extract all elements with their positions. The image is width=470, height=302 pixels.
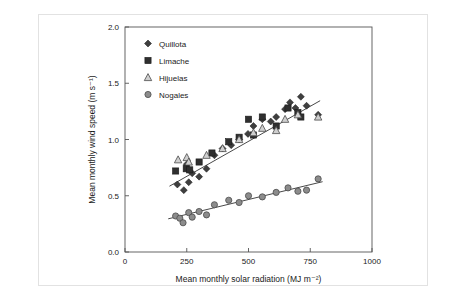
data-point-circle [245,193,251,199]
data-point-square [145,57,151,63]
data-point-circle [285,185,291,191]
x-tick-label: 0 [123,257,128,266]
data-point-circle [211,202,217,208]
x-tick-label: 1000 [363,257,381,266]
data-point-circle [315,176,321,182]
data-point-square [285,105,291,111]
data-point-circle [145,91,151,97]
legend-label-nogales: Nogales [159,91,188,100]
data-point-square [173,168,179,174]
data-point-square [259,114,265,120]
x-tick-label: 250 [180,257,194,266]
data-point-circle [203,212,209,218]
x-axis-title: Mean monthly solar radiation (MJ m⁻²) [176,274,322,284]
figure-container: 025050075010000.00.51.01.52.0Mean monthl… [0,0,470,302]
legend-label-quillota: Quillota [159,40,187,49]
data-point-square [245,116,251,122]
data-point-circle [196,208,202,214]
data-point-circle [273,189,279,195]
y-tick-label: 0.5 [108,192,120,201]
y-tick-label: 2.0 [108,23,120,32]
data-point-circle [226,197,232,203]
legend-label-hijuelas: Hijuelas [159,74,187,83]
y-tick-label: 1.5 [108,79,120,88]
x-tick-label: 500 [242,257,256,266]
data-point-circle [236,199,242,205]
scatter-chart: 025050075010000.00.51.01.52.0Mean monthl… [0,0,470,302]
data-point-circle [180,220,186,226]
data-point-circle [259,194,265,200]
x-tick-label: 750 [304,257,318,266]
data-point-square [196,159,202,165]
data-point-circle [295,188,301,194]
legend-label-limache: Limache [159,57,190,66]
data-point-square [209,150,215,156]
y-axis-title: Mean monthly wind speed (m s⁻¹) [87,75,97,203]
y-tick-label: 0.0 [108,248,120,257]
data-point-square [187,167,193,173]
data-point-square [226,139,232,145]
y-tick-label: 1.0 [108,136,120,145]
data-point-circle [189,214,195,220]
data-point-circle [303,187,309,193]
